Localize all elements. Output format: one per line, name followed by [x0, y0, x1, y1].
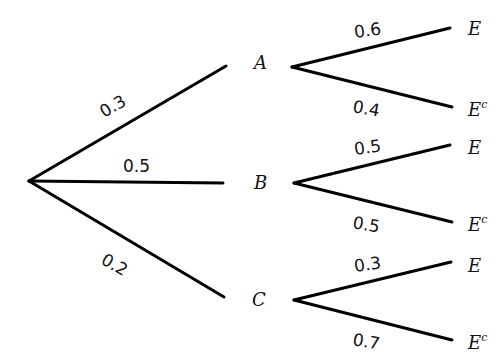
- node-c: C: [252, 289, 266, 310]
- branch-root-to-b: [29, 181, 223, 183]
- probability-b-e: 0.5: [353, 135, 383, 159]
- branch-root-to-c: [29, 181, 224, 297]
- probability-c-ec: 0.7: [351, 329, 381, 353]
- outcome-b-e: E: [467, 137, 481, 158]
- probability-tree-diagram: 0.3A0.5B0.2C0.6E0.4Ec0.5E0.5Ec0.3E0.7Ec: [0, 0, 498, 357]
- probability-a-ec: 0.4: [351, 96, 381, 120]
- outcome-a-e: E: [467, 18, 481, 39]
- outcome-a-ec: Ec: [467, 98, 487, 120]
- outcome-b-ec: Ec: [467, 213, 487, 235]
- node-b: B: [253, 172, 267, 193]
- probability-a: 0.3: [96, 91, 129, 122]
- complement-superscript: c: [481, 98, 487, 111]
- complement-superscript: c: [481, 213, 487, 226]
- outcome-c-ec: Ec: [467, 331, 487, 353]
- node-a: A: [252, 52, 267, 73]
- probability-c: 0.2: [98, 249, 131, 280]
- probability-c-e: 0.3: [353, 252, 383, 276]
- outcome-c-e: E: [467, 255, 481, 276]
- complement-superscript: c: [481, 331, 487, 344]
- probability-b-ec: 0.5: [351, 212, 381, 236]
- probability-b: 0.5: [123, 156, 150, 176]
- probability-a-e: 0.6: [353, 18, 383, 42]
